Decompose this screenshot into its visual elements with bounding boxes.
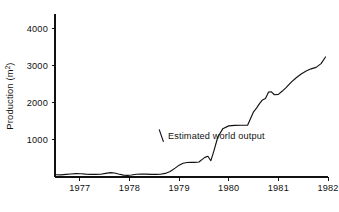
x-tick-label-1978: 1978 <box>119 183 140 193</box>
y-tick-label-4000: 4000 <box>27 24 48 34</box>
y-tick-label-1000: 1000 <box>27 135 48 145</box>
data-line-series-0 <box>56 57 326 175</box>
x-tick-label-1979: 1979 <box>168 183 189 193</box>
x-tick-label-1981: 1981 <box>268 183 289 193</box>
x-tick-label-1980: 1980 <box>218 183 239 193</box>
chart-figure: 1000200030004000 19771978197919801981198… <box>0 0 339 212</box>
annotation-label-0: Estimated world output <box>168 131 265 141</box>
x-axis-tick-labels: 197719781979198019811982 <box>69 183 338 193</box>
chart-annotations: Estimated world output <box>168 131 265 141</box>
y-tick-label-2000: 2000 <box>27 98 48 108</box>
line-chart: 1000200030004000 19771978197919801981198… <box>0 0 339 212</box>
data-series-group <box>56 57 326 175</box>
x-tick-label-1977: 1977 <box>69 183 90 193</box>
annotation-leader-line <box>159 130 163 142</box>
y-tick-label-3000: 3000 <box>27 61 48 71</box>
x-tick-label-1982: 1982 <box>317 183 338 193</box>
y-axis-title: Production (m2) <box>4 62 16 129</box>
y-axis-tick-labels: 1000200030004000 <box>27 24 48 145</box>
